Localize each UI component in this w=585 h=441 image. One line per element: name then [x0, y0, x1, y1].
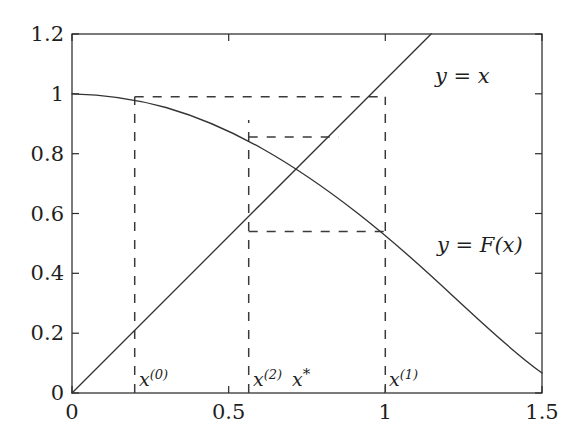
y-tick-label-3: 0.6 — [31, 202, 64, 226]
xstar-base: x — [292, 368, 303, 390]
x1-label: x(1) — [389, 367, 418, 390]
xstar-label: x* — [292, 365, 311, 390]
x-tick-label-3: 1.5 — [525, 400, 558, 424]
x-tick-label-2: 1 — [379, 400, 392, 424]
y-tick-label-1: 0.2 — [31, 321, 64, 345]
y-tick-label-4: 0.8 — [31, 142, 64, 166]
iterate-labels: x(0) x(2) x* x(1) — [139, 365, 418, 390]
x-tick-labels: 0 0.5 1 1.5 — [65, 400, 558, 424]
x0-base: x — [139, 368, 150, 390]
x2-base: x — [253, 368, 264, 390]
fixed-point-iteration-chart: 0 0.2 0.4 0.6 0.8 1 1.2 0 0.5 1 1.5 — [0, 0, 585, 441]
cobweb-vertical-lines — [135, 97, 386, 393]
y-tick-label-5: 1 — [51, 82, 64, 106]
plot-svg: 0 0.2 0.4 0.6 0.8 1 1.2 0 0.5 1 1.5 — [0, 0, 585, 441]
x1-base: x — [389, 368, 400, 390]
x1-sup: (1) — [400, 367, 418, 382]
y-tick-label-0: 0 — [51, 381, 64, 405]
x0-sup: (0) — [150, 367, 168, 382]
xstar-sup: * — [303, 365, 311, 383]
x2-sup: (2) — [264, 367, 282, 382]
y-equals-x-label: y = x — [434, 64, 490, 88]
x2-label: x(2) — [253, 367, 282, 390]
line-y-equals-x — [72, 34, 431, 393]
y-equals-F-of-x-label: y = F(x) — [436, 233, 523, 257]
y-tick-labels: 0 0.2 0.4 0.6 0.8 1 1.2 — [31, 22, 64, 405]
y-tick-label-6: 1.2 — [31, 22, 64, 46]
y-tick-label-2: 0.4 — [31, 261, 64, 285]
x-tick-label-0: 0 — [65, 400, 78, 424]
x0-label: x(0) — [139, 367, 168, 390]
x-tick-label-1: 0.5 — [212, 400, 245, 424]
